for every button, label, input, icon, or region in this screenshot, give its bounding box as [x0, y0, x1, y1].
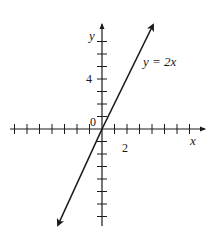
x-axis-label: x [189, 133, 196, 148]
x-tick-label-2: 2 [122, 141, 128, 155]
y-tick-label-4: 4 [86, 72, 92, 86]
line-y-equals-2x-lower [58, 129, 102, 225]
graph-canvas: x y 0 2 4 y = 2x [0, 0, 218, 238]
line-y-equals-2x [102, 25, 153, 129]
y-axis-label: y [87, 28, 95, 43]
equation-label: y = 2x [141, 54, 177, 69]
origin-label: 0 [90, 115, 96, 129]
